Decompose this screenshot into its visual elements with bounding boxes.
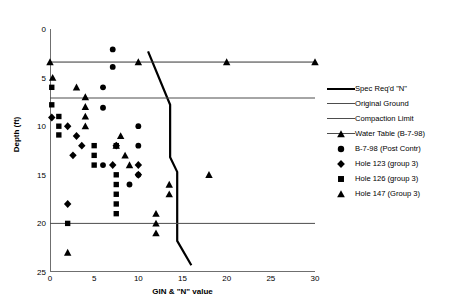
line-icon (327, 118, 355, 119)
marker-triangle (64, 249, 71, 256)
marker-square (56, 132, 61, 137)
legend-label: B-7-98 (Post Contr) (355, 141, 421, 156)
marker-diamond (135, 161, 142, 169)
line-icon (327, 88, 355, 90)
marker-diamond (48, 113, 55, 121)
marker-diamond (73, 132, 80, 140)
marker-square (49, 102, 54, 107)
marker-triangle (166, 191, 173, 198)
marker-diamond (135, 171, 142, 179)
marker-square (114, 192, 119, 197)
marker-diamond (78, 142, 85, 150)
marker-triangle (82, 122, 89, 129)
marker-circle (100, 84, 106, 90)
legend-item[interactable]: B-7-98 (Post Contr) (327, 141, 449, 156)
marker-diamond (64, 122, 71, 130)
legend-label: Compaction Limit (355, 111, 414, 126)
marker-diamond (337, 159, 345, 167)
legend-key (327, 81, 355, 96)
legend-item[interactable]: Hole 123 (group 3) (327, 156, 449, 171)
marker-triangle (82, 93, 89, 100)
marker-circle (110, 47, 116, 53)
line-icon (327, 103, 355, 104)
marker-square (114, 201, 119, 206)
chart-legend: Spec Req'd "N"Original GroundCompaction … (327, 81, 449, 201)
legend-item[interactable]: Compaction Limit (327, 111, 449, 126)
marker-square (338, 176, 344, 182)
legend-label: Spec Req'd "N" (355, 81, 407, 96)
legend-item[interactable]: Hole 126 (group 3) (327, 171, 449, 186)
legend-key (327, 186, 355, 201)
marker-circle (127, 182, 133, 188)
legend-key (327, 141, 355, 156)
diamond-icon (335, 158, 347, 170)
square-icon (335, 173, 347, 185)
marker-triangle (121, 152, 128, 159)
marker-circle (110, 64, 116, 70)
marker-circle (135, 143, 141, 149)
scatter-chart: 0510152025 051015202530 GIN & "N" value … (0, 0, 452, 304)
x-tick-label: 30 (300, 274, 330, 283)
x-axis-ticks: 051015202530 (50, 274, 315, 288)
legend-key (327, 126, 355, 141)
legend-item[interactable]: Spec Req'd "N" (327, 81, 449, 96)
x-tick-label: 10 (123, 274, 153, 283)
marker-square (91, 143, 96, 148)
legend-item[interactable]: Water Table (B-7-98) (327, 126, 449, 141)
y-axis-title: Depth (ft) (12, 100, 21, 170)
legend-key (327, 171, 355, 186)
marker-triangle (152, 229, 159, 236)
marker-square (114, 172, 119, 177)
marker-triangle (73, 84, 80, 91)
marker-triangle (205, 171, 212, 178)
triangle-icon (335, 188, 347, 200)
legend-label: Water Table (B-7-98) (355, 126, 425, 141)
legend-item[interactable]: Original Ground (327, 96, 449, 111)
marker-triangle (49, 74, 56, 81)
legend-item[interactable]: Hole 147 (Group 3) (327, 186, 449, 201)
marker-square (49, 85, 54, 90)
marker-triangle (117, 132, 124, 139)
marker-triangle (166, 181, 173, 188)
triangle-icon (335, 128, 347, 140)
series-hole-147-group-3 (49, 74, 213, 256)
marker-triangle (82, 103, 89, 110)
marker-diamond (109, 161, 116, 169)
x-tick-label: 25 (256, 274, 286, 283)
marker-triangle (152, 210, 159, 217)
x-tick-label: 20 (212, 274, 242, 283)
marker-triangle (82, 113, 89, 120)
marker-circle (135, 123, 141, 129)
marker-square (65, 221, 70, 226)
legend-key (327, 96, 355, 111)
marker-circle (100, 105, 106, 111)
marker-square (56, 114, 61, 119)
x-axis-title: GIN & "N" value (50, 287, 315, 296)
marker-square (91, 153, 96, 158)
marker-triangle (337, 190, 345, 197)
x-tick-label: 5 (79, 274, 109, 283)
legend-label: Hole 147 (Group 3) (355, 186, 420, 201)
marker-triangle (337, 130, 345, 137)
marker-circle (338, 145, 344, 151)
series-water-table-b-7-98 (46, 58, 318, 65)
marker-square (114, 211, 119, 216)
marker-circle (100, 162, 106, 168)
marker-square (56, 124, 61, 129)
legend-key (327, 111, 355, 126)
marker-square (114, 182, 119, 187)
marker-diamond (64, 200, 71, 208)
series-hole-123-group-3 (48, 113, 142, 207)
circle-icon (335, 143, 347, 155)
legend-key (327, 156, 355, 171)
x-tick-label: 15 (168, 274, 198, 283)
x-tick-label: 0 (35, 274, 65, 283)
legend-label: Hole 123 (group 3) (355, 156, 418, 171)
marker-square (91, 162, 96, 167)
legend-label: Hole 126 (group 3) (355, 171, 418, 186)
marker-diamond (69, 151, 76, 159)
legend-label: Original Ground (355, 96, 409, 111)
marker-triangle (126, 161, 133, 168)
series-b-7-98-post-contr (100, 47, 141, 188)
